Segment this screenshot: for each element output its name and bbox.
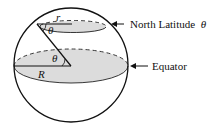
label-small-r: r (56, 11, 61, 23)
label-angle-top: θ (48, 24, 54, 36)
equator-arrowhead (130, 63, 136, 69)
label-north-latitude: North Latitude θ (130, 18, 207, 30)
sphere-diagram: r θ θ R North Latitude θ Equator (0, 0, 216, 125)
north-latitude-theta: θ (201, 18, 207, 30)
label-radius-R: R (37, 68, 45, 80)
equator-disk-back (14, 49, 128, 66)
north-latitude-text: North Latitude (130, 18, 195, 30)
equator-disk-front (14, 66, 128, 83)
label-equator: Equator (152, 60, 187, 72)
label-angle-center: θ (52, 52, 58, 64)
